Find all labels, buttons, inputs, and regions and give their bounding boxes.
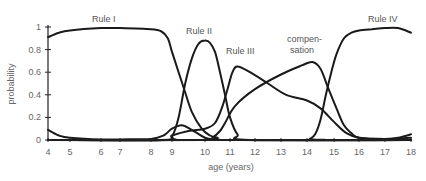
y-tick-label: 0 (36, 135, 41, 145)
y-tick-label: 0.4 (28, 90, 41, 100)
y-tick-label: 0.6 (28, 67, 41, 77)
x-tick-label: 8 (148, 147, 153, 157)
plot-curves (48, 28, 411, 141)
x-tick-label: 16 (354, 147, 364, 157)
x-tick-label: 14 (302, 147, 312, 157)
x-tick-label: 15 (329, 147, 339, 157)
label-rule-1: Rule I (92, 14, 116, 24)
line-chart: 00.20.40.60.81 456789101112131415161718 … (0, 0, 426, 181)
x-tick-label: 10 (200, 147, 210, 157)
y-tick-label: 0.8 (28, 45, 41, 55)
label-compensation-line2: sation (290, 45, 314, 55)
x-tick-label: 4 (45, 147, 50, 157)
x-tick-label: 5 (67, 147, 72, 157)
x-tick-label: 13 (276, 147, 286, 157)
curve-compensation (48, 62, 411, 140)
x-tick-label: 12 (250, 147, 260, 157)
x-tick-label: 7 (117, 147, 122, 157)
y-tick-label: 0.2 (28, 112, 41, 122)
x-axis-title: age (years) (208, 162, 254, 172)
x-tick-label: 18 (406, 147, 416, 157)
curve-rule-iii (48, 67, 411, 141)
y-tick-label: 1 (36, 22, 41, 32)
x-tick-label: 17 (380, 147, 390, 157)
label-rule-2: Rule II (186, 26, 212, 36)
x-tick-label: 9 (169, 147, 174, 157)
x-tick-label: 6 (98, 147, 103, 157)
label-rule-4: Rule IV (368, 14, 398, 24)
x-tick-label: 11 (225, 147, 234, 157)
y-axis-title: probability (6, 63, 16, 105)
label-rule-3: Rule III (226, 46, 255, 56)
label-compensation-line1: compen- (287, 34, 322, 44)
